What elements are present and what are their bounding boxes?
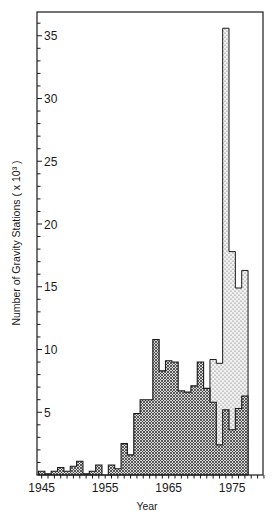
y-axis-title: Number of Gravity Stations ( x 10³ ) bbox=[10, 160, 22, 325]
x-axis: 1945195519651975 bbox=[28, 475, 264, 495]
y-tick-label: 20 bbox=[44, 218, 58, 232]
x-tick-label: 1955 bbox=[92, 481, 119, 495]
plot-area bbox=[39, 28, 249, 475]
y-tick-label: 35 bbox=[44, 29, 58, 43]
y-tick-label: 30 bbox=[44, 92, 58, 106]
x-tick-label: 1945 bbox=[28, 481, 55, 495]
y-axis: 5101520253035 bbox=[37, 23, 58, 462]
y-tick-label: 25 bbox=[44, 155, 58, 169]
x-tick-label: 1965 bbox=[155, 481, 182, 495]
histogram-chart: 5101520253035 1945195519651975 Year Numb… bbox=[0, 0, 277, 518]
y-tick-label: 10 bbox=[44, 343, 58, 357]
y-tick-label: 15 bbox=[44, 280, 58, 294]
x-axis-title: Year bbox=[136, 500, 158, 512]
x-tick-label: 1975 bbox=[219, 481, 246, 495]
y-tick-label: 5 bbox=[44, 406, 51, 420]
